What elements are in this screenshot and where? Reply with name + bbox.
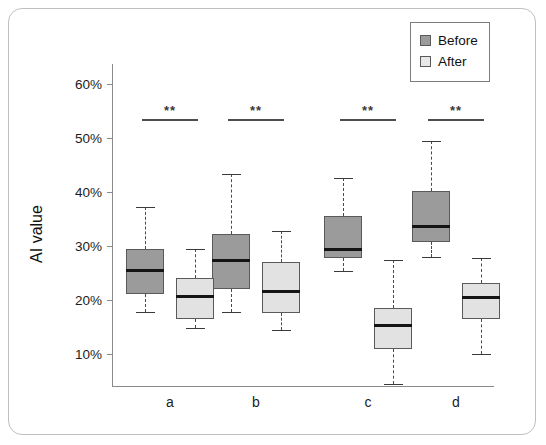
- significance-label-a: **: [150, 103, 190, 118]
- whisker-cap-lower: [384, 384, 403, 385]
- figure-canvas: AI value 60%50%40%30%20%10% abcd *******…: [0, 0, 546, 445]
- y-tick-mark: [107, 246, 112, 247]
- whisker-lower: [195, 319, 196, 328]
- significance-label-d: **: [436, 103, 476, 118]
- median-line: [262, 290, 300, 293]
- y-tick-label: 40%: [52, 185, 102, 200]
- whisker-lower: [431, 242, 432, 257]
- y-axis-line: [112, 64, 113, 386]
- whisker-cap-upper: [136, 207, 155, 208]
- whisker-upper: [431, 141, 432, 191]
- median-line: [324, 248, 362, 251]
- significance-bar-c: [340, 119, 396, 121]
- y-tick-label: 30%: [52, 239, 102, 254]
- x-tick-label-d: d: [436, 394, 476, 410]
- y-tick-label: 60%: [52, 77, 102, 92]
- whisker-cap-lower: [136, 312, 155, 313]
- significance-label-c: **: [348, 103, 388, 118]
- y-tick-label: 20%: [52, 293, 102, 308]
- legend[interactable]: BeforeAfter: [410, 22, 490, 82]
- legend-item-label: Before: [438, 33, 478, 48]
- box-rect: [262, 262, 300, 313]
- y-tick-label: 50%: [52, 131, 102, 146]
- median-line: [212, 259, 250, 262]
- legend-swatch-icon: [420, 56, 431, 67]
- significance-bar-a: [142, 119, 198, 121]
- whisker-cap-upper: [222, 174, 241, 175]
- y-axis-title: AI value: [28, 174, 46, 294]
- whisker-cap-lower: [272, 330, 291, 331]
- whisker-cap-lower: [472, 354, 491, 355]
- whisker-upper: [231, 174, 232, 234]
- median-line: [462, 296, 500, 299]
- whisker-upper: [393, 260, 394, 308]
- whisker-cap-upper: [422, 141, 441, 142]
- whisker-cap-lower: [422, 257, 441, 258]
- x-tick-label-a: a: [150, 394, 190, 410]
- median-line: [374, 324, 412, 327]
- x-axis-line: [112, 386, 494, 387]
- legend-item-before[interactable]: Before: [420, 30, 489, 51]
- box-rect: [324, 216, 362, 258]
- y-tick-mark: [107, 300, 112, 301]
- y-tick-mark: [107, 138, 112, 139]
- box-rect: [412, 191, 450, 242]
- significance-label-b: **: [236, 103, 276, 118]
- whisker-lower: [343, 258, 344, 271]
- y-tick-label: 10%: [52, 347, 102, 362]
- whisker-lower: [145, 294, 146, 312]
- y-tick-mark: [107, 84, 112, 85]
- median-line: [412, 225, 450, 228]
- whisker-cap-lower: [334, 271, 353, 272]
- y-tick-mark: [107, 192, 112, 193]
- x-tick-label-c: c: [348, 394, 388, 410]
- whisker-upper: [281, 231, 282, 262]
- legend-swatch-icon: [420, 35, 431, 46]
- whisker-lower: [393, 349, 394, 384]
- box-rect: [462, 283, 500, 319]
- whisker-cap-upper: [186, 249, 205, 250]
- whisker-cap-upper: [334, 178, 353, 179]
- whisker-upper: [145, 207, 146, 249]
- box-rect: [212, 234, 250, 289]
- whisker-upper: [481, 258, 482, 283]
- whisker-lower: [231, 289, 232, 312]
- box-rect: [176, 278, 214, 319]
- whisker-upper: [195, 249, 196, 278]
- whisker-cap-upper: [384, 260, 403, 261]
- x-tick-label-b: b: [236, 394, 276, 410]
- box-rect: [374, 308, 412, 349]
- legend-item-label: After: [438, 54, 467, 69]
- whisker-cap-lower: [186, 328, 205, 329]
- significance-bar-b: [228, 119, 284, 121]
- median-line: [176, 295, 214, 298]
- whisker-cap-upper: [272, 231, 291, 232]
- y-tick-mark: [107, 354, 112, 355]
- median-line: [126, 269, 164, 272]
- legend-item-after[interactable]: After: [420, 51, 489, 72]
- whisker-upper: [343, 178, 344, 216]
- whisker-lower: [481, 319, 482, 354]
- whisker-cap-upper: [472, 258, 491, 259]
- whisker-lower: [281, 313, 282, 330]
- significance-bar-d: [428, 119, 484, 121]
- whisker-cap-lower: [222, 312, 241, 313]
